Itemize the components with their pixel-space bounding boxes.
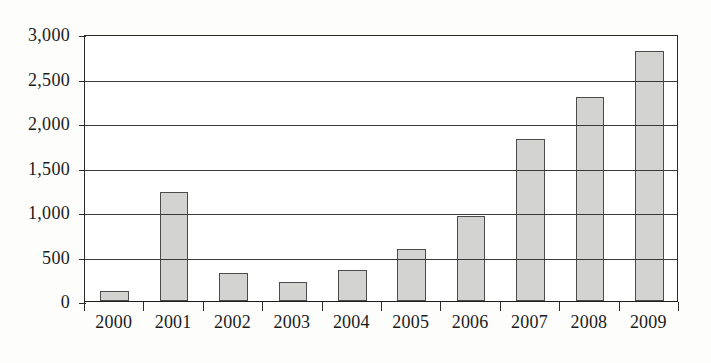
bar [516, 139, 545, 301]
gridline [85, 214, 677, 215]
y-axis-tick-label: 500 [42, 247, 70, 268]
x-axis-tick-mark [143, 302, 144, 311]
x-axis-tick-label: 2000 [95, 312, 132, 333]
x-axis-tick-label: 2005 [392, 312, 429, 333]
bar [160, 192, 189, 301]
bar [338, 270, 367, 301]
bar [100, 291, 129, 301]
bar [397, 249, 426, 302]
x-axis-tick-mark [619, 302, 620, 311]
bar [279, 282, 308, 301]
y-axis-tick-label: 2,500 [28, 69, 70, 90]
bars-layer [85, 36, 677, 301]
gridline [85, 125, 677, 126]
y-axis: 05001,0001,5002,0002,5003,000 [0, 0, 78, 363]
bar [576, 97, 605, 301]
x-axis-tick-mark [262, 302, 263, 311]
x-axis-tick-mark [203, 302, 204, 311]
bar-chart-figure: 05001,0001,5002,0002,5003,000 2000200120… [0, 0, 711, 363]
x-axis-tick-label: 2003 [273, 312, 310, 333]
bar [635, 51, 664, 301]
x-axis-tick-mark [84, 302, 85, 311]
x-axis-tick-label: 2006 [452, 312, 489, 333]
x-axis-tick-label: 2004 [333, 312, 370, 333]
x-axis-tick-label: 2007 [511, 312, 548, 333]
y-axis-tick-mark [79, 36, 86, 37]
gridline [85, 170, 677, 171]
x-axis: 2000200120022003200420052006200720082009 [84, 312, 678, 342]
y-axis-tick-label: 0 [61, 292, 70, 313]
bar [219, 273, 248, 301]
x-axis-tick-mark [678, 302, 679, 311]
x-axis-tick-mark [559, 302, 560, 311]
x-axis-tick-mark [322, 302, 323, 311]
x-axis-tick-label: 2001 [155, 312, 192, 333]
plot-area [84, 35, 678, 302]
x-axis-tick-label: 2008 [570, 312, 607, 333]
x-axis-tick-mark [440, 302, 441, 311]
x-axis-tick-mark [500, 302, 501, 311]
x-axis-tick-label: 2009 [630, 312, 667, 333]
y-axis-tick-label: 1,000 [28, 203, 70, 224]
x-axis-tick-mark [381, 302, 382, 311]
y-axis-tick-label: 1,500 [28, 158, 70, 179]
gridline [85, 259, 677, 260]
x-axis-tick-marks [84, 302, 678, 312]
x-axis-tick-label: 2002 [214, 312, 251, 333]
y-axis-tick-label: 3,000 [28, 25, 70, 46]
y-axis-tick-label: 2,000 [28, 114, 70, 135]
gridline [85, 81, 677, 82]
